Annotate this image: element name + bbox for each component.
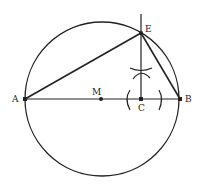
point-a bbox=[23, 97, 27, 101]
point-c bbox=[139, 97, 143, 101]
point-e bbox=[139, 31, 143, 35]
label-m: M bbox=[92, 87, 101, 97]
label-a: A bbox=[11, 94, 19, 104]
construction-arc-left bbox=[127, 90, 130, 110]
label-e: E bbox=[145, 24, 152, 34]
point-m bbox=[99, 97, 103, 101]
segment-ae bbox=[25, 33, 141, 99]
point-b bbox=[178, 97, 182, 101]
geometry-diagram: A B M C E bbox=[0, 0, 199, 187]
label-c: C bbox=[138, 103, 145, 113]
construction-arc-right bbox=[159, 90, 162, 110]
label-b: B bbox=[185, 94, 192, 104]
segment-eb bbox=[141, 33, 180, 99]
